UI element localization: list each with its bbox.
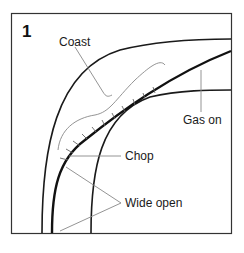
gas-on-label: Gas on	[183, 114, 222, 126]
track-inner-edge	[91, 90, 231, 233]
coast-leader	[75, 47, 103, 92]
wide-open-leader-upper	[66, 167, 121, 203]
chop-label: Chop	[125, 150, 154, 162]
coast-label: Coast	[59, 36, 90, 48]
panel-number: 1	[22, 23, 31, 40]
diagram-panel: 1 Coast Gas on Chop Wide open	[0, 0, 244, 253]
wide-open-label: Wide open	[125, 197, 182, 209]
coast-bracket	[58, 63, 165, 150]
